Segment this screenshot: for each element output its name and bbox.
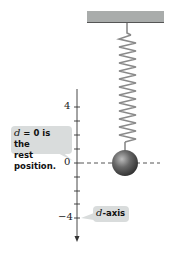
mass-ball (112, 150, 138, 176)
spring (119, 23, 136, 155)
axis-label-text: -axis (102, 208, 125, 218)
rest-position-callout: d = 0 is the rest position. (11, 126, 72, 154)
ceiling-block (87, 11, 164, 22)
callout-line2: rest position. (14, 150, 69, 172)
tick-label-neg4: −4 (58, 211, 73, 222)
axis-label-callout: d-axis (93, 206, 129, 222)
axis-arrow-icon (75, 236, 80, 242)
tick-label-4: 4 (64, 100, 70, 111)
callout-line1: = 0 is the (14, 128, 50, 149)
d-axis (74, 89, 80, 238)
